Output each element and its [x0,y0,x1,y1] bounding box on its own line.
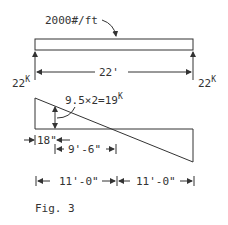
shear-leader [57,107,75,118]
right-reaction-value: 22K [198,75,216,90]
load-leader-arrow [102,20,116,36]
shear-line [35,98,193,162]
left-reaction-value: 22K [12,75,30,90]
dim-18-label: 18" [37,134,57,147]
figure-caption: Fig. 3 [35,202,75,215]
dim-9-6-label: 9'-6" [68,143,101,156]
dim-right-half-label: 11'-0" [136,175,176,188]
dim-left-half-label: 11'-0" [59,175,99,188]
shear-value-label: 9.5×2=19K [65,92,123,107]
distributed-load [35,39,193,50]
load-label: 2000#/ft [45,14,98,27]
span-label: 22' [99,66,119,79]
beam-diagram: 2000#/ft 22K 22K 22' 9.5×2=19K 18" 9'-6"… [0,0,228,225]
